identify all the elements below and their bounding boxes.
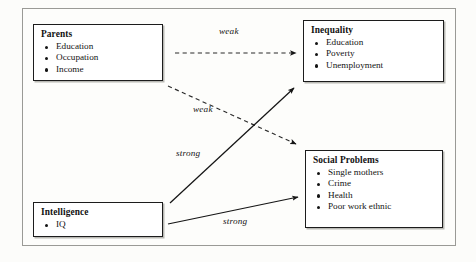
list-item: Education bbox=[304, 37, 443, 48]
node-parents-title: Parents bbox=[34, 25, 162, 41]
node-inequality-items: Education Poverty Unemployment bbox=[304, 37, 443, 71]
edge-label-intelligence-to-social: strong bbox=[223, 216, 247, 226]
list-item: Unemployment bbox=[304, 60, 443, 71]
list-item: Poor work ethnic bbox=[306, 201, 442, 212]
node-intelligence[interactable]: Intelligence IQ bbox=[33, 202, 163, 237]
list-item: Poverty bbox=[304, 48, 443, 59]
list-item: Education bbox=[34, 41, 162, 52]
edge-intelligence-to-inequality bbox=[170, 88, 294, 203]
list-item: Crime bbox=[306, 178, 442, 189]
node-inequality[interactable]: Inequality Education Poverty Unemploymen… bbox=[303, 20, 444, 82]
node-parents[interactable]: Parents Education Occupation Income bbox=[33, 24, 163, 81]
list-item: Single mothers bbox=[306, 167, 442, 178]
diagram-canvas: Parents Education Occupation Income Ineq… bbox=[0, 0, 476, 262]
node-social-problems[interactable]: Social Problems Single mothers Crime Hea… bbox=[305, 150, 443, 228]
list-item: Health bbox=[306, 190, 442, 201]
edge-label-parents-to-inequality: weak bbox=[219, 26, 239, 36]
edge-parents-to-social bbox=[168, 86, 296, 144]
edge-label-parents-to-social: weak bbox=[193, 104, 213, 114]
node-parents-items: Education Occupation Income bbox=[34, 41, 162, 75]
node-social-problems-title: Social Problems bbox=[306, 151, 442, 167]
edge-label-intelligence-to-inequality: strong bbox=[176, 148, 200, 158]
node-intelligence-items: IQ bbox=[34, 219, 162, 230]
list-item: Occupation bbox=[34, 52, 162, 63]
list-item: Income bbox=[34, 64, 162, 75]
list-item: IQ bbox=[34, 219, 162, 230]
node-social-problems-items: Single mothers Crime Health Poor work et… bbox=[306, 167, 442, 213]
node-intelligence-title: Intelligence bbox=[34, 203, 162, 219]
node-inequality-title: Inequality bbox=[304, 21, 443, 37]
